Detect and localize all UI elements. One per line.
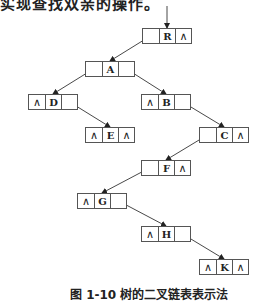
first-child-pointer: ∧	[78, 194, 94, 208]
next-sibling-pointer: ∧	[174, 161, 190, 175]
node-data: B	[158, 95, 174, 109]
next-sibling-pointer	[118, 62, 134, 76]
first-child-pointer: ∧	[200, 260, 216, 274]
node-data: R	[159, 29, 175, 43]
tree-node-r: R∧	[142, 28, 192, 44]
tree-node-f: F∧	[141, 160, 191, 176]
next-sibling-pointer	[110, 194, 126, 208]
tree-node-b: ∧B	[141, 94, 191, 110]
next-sibling-pointer: ∧	[118, 128, 134, 142]
figure-caption: 图 1-10 树的二叉链表表示法	[70, 285, 228, 302]
first-child-pointer: ∧	[29, 95, 45, 109]
node-data: F	[158, 161, 174, 175]
next-sibling-pointer: ∧	[232, 260, 248, 274]
tree-node-h: ∧H	[141, 226, 191, 242]
first-child-pointer	[200, 128, 216, 142]
tree-node-a: A	[85, 61, 135, 77]
next-sibling-pointer: ∧	[175, 29, 191, 43]
next-sibling-pointer	[174, 95, 190, 109]
node-data: C	[216, 128, 232, 142]
node-data: D	[45, 95, 61, 109]
node-data: E	[102, 128, 118, 142]
tree-node-c: C∧	[199, 127, 249, 143]
first-child-pointer	[142, 161, 158, 175]
node-data: H	[158, 227, 174, 241]
first-child-pointer: ∧	[86, 128, 102, 142]
next-sibling-pointer: ∧	[232, 128, 248, 142]
node-data: G	[94, 194, 110, 208]
next-sibling-pointer	[174, 227, 190, 241]
node-data: A	[102, 62, 118, 76]
tree-node-d: ∧D	[28, 94, 78, 110]
first-child-pointer: ∧	[142, 227, 158, 241]
first-child-pointer	[86, 62, 102, 76]
tree-node-e: ∧E∧	[85, 127, 135, 143]
first-child-pointer: ∧	[142, 95, 158, 109]
node-data: K	[216, 260, 232, 274]
tree-node-g: ∧G	[77, 193, 127, 209]
next-sibling-pointer	[61, 95, 77, 109]
first-child-pointer	[143, 29, 159, 43]
tree-node-k: ∧K∧	[199, 259, 249, 275]
